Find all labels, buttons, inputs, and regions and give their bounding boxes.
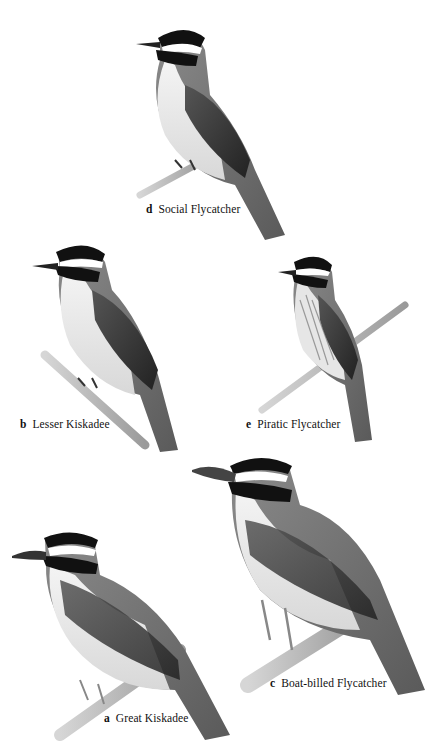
caption-great-kiskadee: aGreat Kiskadee xyxy=(104,712,188,724)
caption-letter: a xyxy=(104,712,110,724)
bird-great-kiskadee xyxy=(12,532,230,740)
bird-piratic-flycatcher xyxy=(262,257,405,442)
caption-name: Lesser Kiskadee xyxy=(33,418,110,430)
caption-letter: b xyxy=(20,418,27,430)
caption-letter: e xyxy=(246,418,251,430)
caption-boat-billed-flycatcher: cBoat-billed Flycatcher xyxy=(270,677,387,689)
caption-piratic-flycatcher: ePiratic Flycatcher xyxy=(246,418,340,430)
caption-name: Great Kiskadee xyxy=(116,712,189,724)
caption-name: Piratic Flycatcher xyxy=(257,418,340,430)
caption-lesser-kiskadee: bLesser Kiskadee xyxy=(20,418,110,430)
caption-name: Boat-billed Flycatcher xyxy=(281,677,386,689)
caption-name: Social Flycatcher xyxy=(159,203,241,215)
caption-letter: d xyxy=(146,203,153,215)
caption-letter: c xyxy=(270,677,275,689)
bird-illustrations xyxy=(0,0,439,751)
bird-boat-billed-flycatcher xyxy=(192,458,425,695)
caption-social-flycatcher: dSocial Flycatcher xyxy=(146,203,240,215)
field-guide-plate: dSocial Flycatcher bLesser Kiskadee ePir… xyxy=(0,0,439,751)
